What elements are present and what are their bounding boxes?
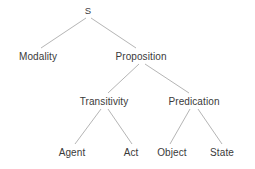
tree-edge-s-to-modality <box>41 18 86 48</box>
tree-edge-predication-to-object <box>170 109 190 144</box>
tree-node-agent: Agent <box>59 148 86 158</box>
tree-edge-proposition-to-transitivity <box>108 64 139 93</box>
tree-node-s: S <box>85 6 91 16</box>
tree-node-act: Act <box>124 148 139 158</box>
tree-node-modality: Modality <box>19 52 57 62</box>
tree-diagram: SModalityPropositionTransitivityPredicat… <box>0 0 255 169</box>
tree-edge-transitivity-to-act <box>108 109 132 144</box>
tree-node-proposition: Proposition <box>115 52 166 62</box>
tree-edge-predication-to-state <box>198 109 222 144</box>
tree-edge-s-to-proposition <box>91 18 136 48</box>
tree-node-transitivity: Transitivity <box>80 97 129 107</box>
tree-edge-transitivity-to-agent <box>75 109 101 144</box>
tree-edge-proposition-to-predication <box>145 64 189 93</box>
tree-edges-layer <box>0 0 255 169</box>
tree-node-state: State <box>210 148 234 158</box>
tree-node-predication: Predication <box>168 97 219 107</box>
tree-node-object: Object <box>157 148 187 158</box>
